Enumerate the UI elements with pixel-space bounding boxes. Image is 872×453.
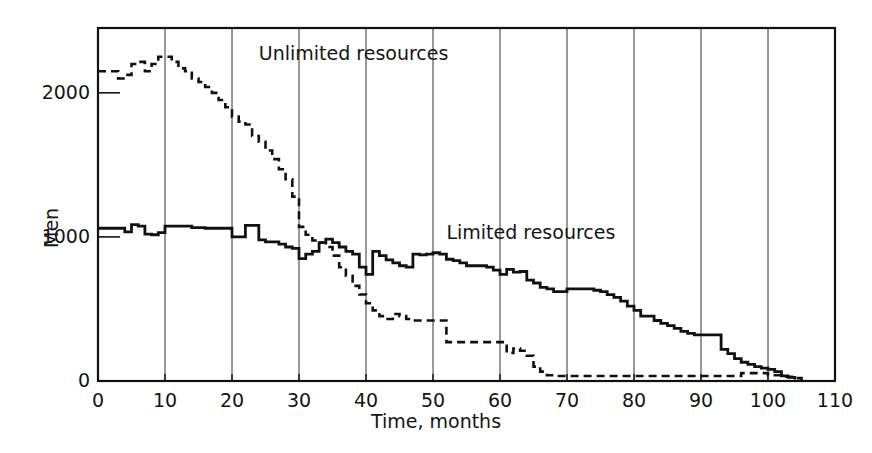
axes-frame — [98, 28, 835, 381]
x-tick-label-70: 70 — [537, 389, 597, 411]
x-tick-label-80: 80 — [604, 389, 664, 411]
x-tick-label-50: 50 — [403, 389, 463, 411]
series-group — [98, 57, 802, 381]
chart-canvas — [0, 0, 872, 453]
x-tick-label-110: 110 — [805, 389, 865, 411]
axes-frame-group — [98, 28, 835, 381]
x-tick-label-20: 20 — [202, 389, 262, 411]
series-label-unlimited-resources: Unlimited resources — [259, 42, 449, 64]
series-path-limited-resources — [98, 225, 795, 380]
x-tick-label-60: 60 — [470, 389, 530, 411]
y-axis-title: Men — [40, 208, 62, 248]
x-tick-label-40: 40 — [336, 389, 396, 411]
series-label-limited-resources: Limited resources — [446, 221, 615, 243]
x-tick-label-100: 100 — [738, 389, 798, 411]
y-tick-label-2000: 2000 — [2, 81, 90, 103]
figure-container: 0102030405060708090100110010002000 Men T… — [0, 0, 872, 453]
x-tick-label-90: 90 — [671, 389, 731, 411]
y-tick-label-0: 0 — [2, 369, 90, 391]
x-tick-label-0: 0 — [68, 389, 128, 411]
x-tick-label-30: 30 — [269, 389, 329, 411]
x-axis-title: Time, months — [0, 410, 872, 432]
x-tick-label-10: 10 — [135, 389, 195, 411]
series-path-unlimited-resources — [98, 57, 802, 381]
